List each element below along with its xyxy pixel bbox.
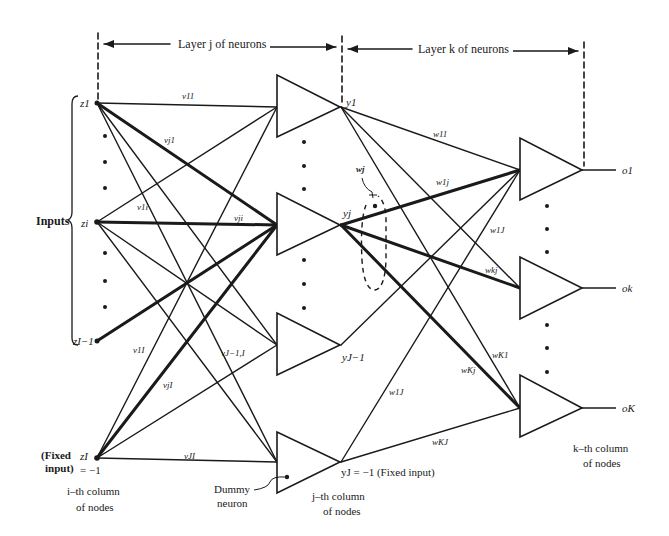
inputs-bracket: [68, 96, 78, 345]
neuron-jj: [277, 193, 340, 255]
weight-vJI: vJI: [184, 452, 195, 461]
weight-w1J-bottom: w1J: [389, 388, 404, 397]
neuron-k1: [520, 138, 582, 200]
neuron-kK: [520, 375, 582, 437]
wj-group-ellipse: [362, 196, 387, 290]
neuron-jJ-1: [277, 313, 340, 375]
weight-w1J-mid: w1J: [490, 226, 505, 235]
neuron-dummy: [277, 432, 340, 493]
weight-v1i: v1i: [137, 203, 148, 212]
fixed-input-label-1: (Fixed: [41, 450, 71, 461]
weight-vjI: vjI: [163, 381, 173, 390]
j-column-label-2: of nodes: [323, 506, 361, 517]
weight-w11: w11: [433, 130, 447, 139]
k-column-label-1: k–th column: [573, 443, 628, 454]
input-zI: zI: [80, 451, 88, 462]
layer-k-header: Layer k of neurons: [414, 43, 513, 55]
weight-vector-wj: wj: [356, 165, 365, 174]
i-column-label-1: i–th column: [67, 486, 120, 497]
k-column-label-2: of nodes: [583, 458, 621, 469]
weight-wKj: wKj: [461, 366, 476, 375]
neuron-kk: [520, 257, 582, 319]
weight-wKJ: wKJ: [432, 438, 448, 447]
dummy-label-2: neuron: [217, 498, 248, 509]
input-zi: zi: [81, 218, 88, 229]
weight-w1j: w1j: [436, 178, 449, 187]
network-diagram: [0, 0, 669, 536]
weight-v1I: v1I: [133, 346, 145, 355]
dummy-label-1: Dummy: [214, 484, 250, 495]
layer-j-header: Layer j of neurons: [174, 38, 270, 50]
input-zI-1: zI−1: [73, 336, 94, 347]
i-column-label-2: of nodes: [76, 502, 114, 513]
output-oK: oK: [622, 403, 635, 414]
output-yJ-1: yJ−1: [342, 352, 365, 363]
w-weights: [341, 107, 520, 462]
weight-v11: v11: [182, 92, 194, 101]
weight-vJ-1-I: vJ−1,I: [221, 349, 245, 358]
output-yJ-fixed: yJ = −1 (Fixed input): [341, 467, 435, 478]
output-ok: ok: [622, 283, 632, 294]
neuron-j1: [277, 75, 340, 137]
fixed-input-value: = −1: [80, 465, 101, 476]
v-weights: [97, 103, 277, 462]
weight-vj1: vj1: [164, 136, 175, 145]
input-z1: z1: [80, 98, 90, 109]
output-o1: o1: [622, 165, 633, 176]
j-column-label-1: j–th column: [312, 491, 365, 502]
output-yj: yj: [343, 208, 351, 219]
weight-vji: vji: [234, 214, 243, 223]
ellipsis-dots: [94, 101, 549, 461]
weight-wK1: wK1: [492, 351, 509, 360]
weight-wkj: wkj: [485, 266, 498, 275]
output-y1: y1: [346, 97, 356, 108]
fixed-input-label-2: input): [45, 463, 74, 474]
inputs-label: Inputs: [36, 215, 69, 227]
